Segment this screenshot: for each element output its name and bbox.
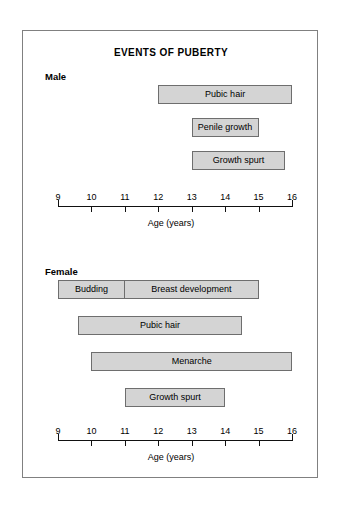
axis-tick-label: 11: [115, 192, 135, 202]
axis-tick-label: 14: [215, 426, 235, 436]
axis-tick-label: 10: [81, 426, 101, 436]
bar-penile-growth: Penile growth: [192, 118, 259, 137]
axis-line: [58, 440, 292, 441]
figure-frame: EVENTS OF PUBERTY Male Pubic hairPenile …: [22, 30, 318, 478]
axis-caption-male: Age (years): [23, 218, 319, 228]
axis-tick-label: 10: [81, 192, 101, 202]
axis-male: Age (years) 910111213141516: [23, 192, 319, 236]
axis-tick: [91, 206, 92, 212]
page-title: EVENTS OF PUBERTY: [23, 47, 319, 58]
axis-tick-label: 9: [48, 192, 68, 202]
axis-tick-label: 16: [282, 192, 302, 202]
axis-tick: [259, 440, 260, 446]
axis-tick-label: 11: [115, 426, 135, 436]
panel-label-male: Male: [45, 71, 66, 82]
panel-label-female: Female: [45, 266, 78, 277]
panel-male: Male Pubic hairPenile growthGrowth spurt…: [23, 71, 319, 256]
axis-tick: [158, 206, 159, 212]
axis-tick-label: 13: [182, 426, 202, 436]
axis-tick: [91, 440, 92, 446]
axis-tick: [225, 206, 226, 212]
axis-tick-label: 9: [48, 426, 68, 436]
axis-tick-label: 16: [282, 426, 302, 436]
bar-pubic-hair: Pubic hair: [78, 316, 242, 335]
axis-tick-label: 14: [215, 192, 235, 202]
bar-breast-development: BuddingBreast development: [58, 280, 259, 299]
bar-segment-budding: Budding: [59, 281, 125, 298]
bar-menarche: Menarche: [91, 352, 292, 371]
axis-tick-label: 15: [249, 426, 269, 436]
bar-pubic-hair: Pubic hair: [158, 85, 292, 104]
axis-tick-label: 15: [249, 192, 269, 202]
axis-tick: [125, 440, 126, 446]
axis-tick: [225, 440, 226, 446]
axis-tick-label: 12: [148, 426, 168, 436]
axis-tick: [158, 440, 159, 446]
axis-tick: [259, 206, 260, 212]
bar-segment-breast-development: Breast development: [125, 281, 257, 298]
axis-caption-female: Age (years): [23, 452, 319, 462]
axis-tick: [192, 440, 193, 446]
panel-female: Female BuddingBreast developmentPubic ha…: [23, 266, 319, 476]
axis-line: [58, 206, 292, 207]
bar-growth-spurt: Growth spurt: [192, 151, 286, 170]
axis-female: Age (years) 910111213141516: [23, 426, 319, 470]
axis-tick: [192, 206, 193, 212]
bar-growth-spurt: Growth spurt: [125, 388, 225, 407]
axis-tick-label: 12: [148, 192, 168, 202]
axis-tick: [125, 206, 126, 212]
axis-tick-label: 13: [182, 192, 202, 202]
